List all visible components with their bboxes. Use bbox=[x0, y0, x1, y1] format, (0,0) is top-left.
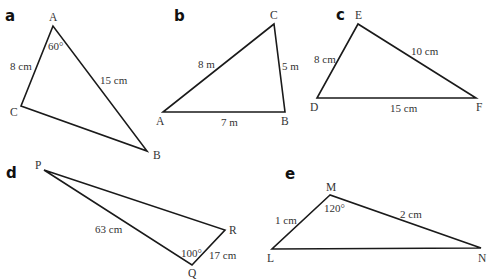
part-label-c: c bbox=[336, 8, 345, 23]
angle-label-a-A: 60° bbox=[48, 41, 63, 52]
vertex-label-b-B: B bbox=[281, 116, 289, 128]
triangle-b bbox=[163, 24, 285, 112]
vertex-label-a-C: C bbox=[10, 107, 18, 119]
side-label-a-AC: 8 cm bbox=[10, 61, 32, 72]
vertex-label-d-R: R bbox=[229, 225, 237, 237]
side-label-b-CB: 5 m bbox=[282, 61, 299, 72]
side-label-d-QR: 17 cm bbox=[209, 250, 236, 261]
side-label-e-MN: 2 cm bbox=[400, 209, 422, 220]
triangle-a bbox=[21, 26, 147, 151]
angle-label-d-Q: 100° bbox=[181, 248, 202, 259]
vertex-label-b-A: A bbox=[156, 116, 164, 128]
part-label-e: e bbox=[285, 167, 295, 182]
side-label-c-DF: 15 cm bbox=[390, 103, 417, 114]
vertex-label-d-Q: Q bbox=[188, 268, 196, 280]
part-label-b: b bbox=[174, 9, 185, 24]
vertex-label-a-B: B bbox=[153, 150, 161, 162]
side-label-e-LM: 1 cm bbox=[275, 215, 297, 226]
side-label-c-EF: 10 cm bbox=[411, 46, 438, 57]
vertex-label-e-N: N bbox=[478, 253, 486, 265]
vertex-label-e-L: L bbox=[267, 253, 274, 265]
side-label-c-DE: 8 cm bbox=[314, 54, 336, 65]
vertex-label-c-E: E bbox=[355, 10, 362, 22]
vertex-label-c-D: D bbox=[310, 102, 318, 114]
angle-label-e-M: 120° bbox=[324, 203, 345, 214]
vertex-label-b-C: C bbox=[270, 10, 278, 22]
vertex-label-e-M: M bbox=[326, 182, 336, 194]
side-label-d-PQ: 63 cm bbox=[95, 224, 122, 235]
side-label-a-AB: 15 cm bbox=[100, 75, 127, 86]
part-label-d: d bbox=[6, 166, 17, 181]
triangle-e bbox=[272, 195, 481, 249]
side-label-b-AB: 7 m bbox=[221, 117, 238, 128]
vertex-label-a-A: A bbox=[49, 12, 57, 24]
part-label-a: a bbox=[5, 9, 15, 24]
triangle-c bbox=[317, 24, 476, 98]
vertex-label-d-P: P bbox=[35, 160, 41, 172]
side-label-b-AC: 8 m bbox=[198, 59, 215, 70]
vertex-label-c-F: F bbox=[476, 102, 482, 114]
